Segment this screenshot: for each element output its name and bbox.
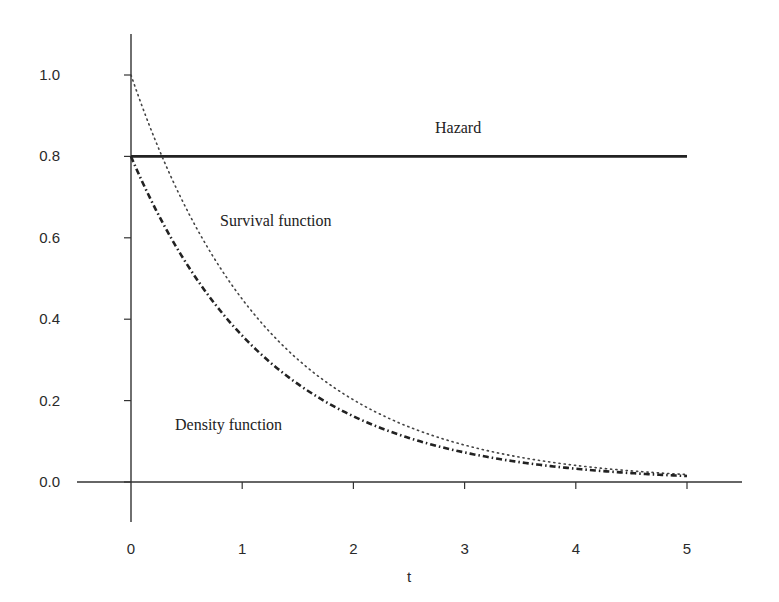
x-tick-label: 4 [572, 540, 580, 557]
survival-label: Survival function [220, 212, 332, 229]
x-axis-ticks: 012345 [127, 482, 691, 557]
y-tick-label: 0.6 [39, 229, 60, 246]
x-tick-label: 3 [460, 540, 468, 557]
x-tick-label: 1 [238, 540, 246, 557]
y-tick-label: 0.4 [39, 310, 60, 327]
x-axis-title: t [407, 568, 412, 585]
x-tick-label: 0 [127, 540, 135, 557]
y-tick-label: 1.0 [39, 66, 60, 83]
survival-hazard-chart: 0.00.20.40.60.81.0 012345 Hazard Surviva… [0, 0, 779, 602]
density-label: Density function [175, 416, 282, 434]
x-tick-label: 5 [683, 540, 691, 557]
y-axis-ticks: 0.00.20.40.60.81.0 [39, 66, 131, 490]
hazard-label: Hazard [435, 119, 481, 136]
y-tick-label: 0.8 [39, 147, 60, 164]
y-tick-label: 0.2 [39, 392, 60, 409]
y-tick-label: 0.0 [39, 473, 60, 490]
x-tick-label: 2 [349, 540, 357, 557]
survival-curve [131, 75, 687, 475]
